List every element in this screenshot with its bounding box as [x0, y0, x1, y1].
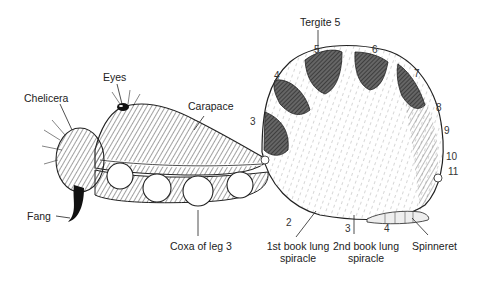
- segment-3-ventral: 3: [345, 223, 351, 234]
- label-spinneret: Spinneret: [412, 240, 457, 252]
- segment-4-ventral: 4: [384, 223, 390, 234]
- label-chelicera: Chelicera: [24, 92, 68, 104]
- label-fang: Fang: [27, 210, 51, 222]
- segment-11: 11: [448, 166, 458, 177]
- segment-6: 6: [372, 44, 378, 55]
- label-coxa-of-leg-3: Coxa of leg 3: [170, 240, 232, 252]
- segment-2-ventral: 2: [286, 217, 292, 228]
- label-2nd-book-lung-spiracle: 2nd book lung spiracle: [326, 240, 406, 264]
- spider-illustration: [0, 0, 479, 281]
- label-carapace: Carapace: [188, 100, 234, 112]
- segment-4: 4: [274, 70, 280, 81]
- segment-8: 8: [436, 102, 442, 113]
- segment-3: 3: [250, 116, 256, 127]
- segment-5: 5: [314, 44, 320, 55]
- eye: [117, 103, 129, 111]
- segment-10: 10: [446, 151, 457, 162]
- segment-9: 9: [444, 125, 450, 136]
- label-eyes: Eyes: [103, 71, 126, 83]
- label-tergite-5: Tergite 5: [300, 16, 340, 28]
- segment-7: 7: [414, 68, 420, 79]
